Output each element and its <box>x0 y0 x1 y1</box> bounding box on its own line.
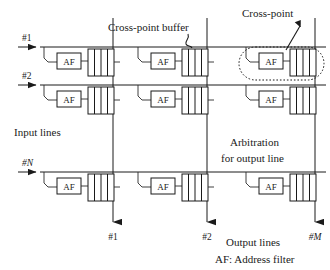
crosspoint-pointer <box>286 26 300 50</box>
crosspoint-label: Cross-point <box>242 7 293 19</box>
crosspoint-cell-r2c2: AF <box>138 85 214 114</box>
crosspoint-switch-diagram: AF AF AF <box>0 0 330 270</box>
arbitration-label-line1: Arbitration <box>230 136 279 148</box>
crosspoint-cell-r1c2: AF <box>138 47 214 76</box>
af-label: AF <box>265 182 277 192</box>
af-label: AF <box>63 182 75 192</box>
crosspoint-cell-rnc2: AF <box>138 172 214 201</box>
input-label-2: #2 <box>22 71 32 81</box>
crosspoint-cell-r1cm: AF <box>246 47 316 76</box>
crosspoint-cell-rnc1: AF <box>44 172 120 201</box>
output-label-1: #1 <box>108 232 118 242</box>
af-label: AF <box>63 95 75 105</box>
crosspoint-cell-r1c1: AF <box>44 47 120 76</box>
crosspoint-buffer-label: Cross-point buffer <box>108 21 189 33</box>
crosspoint-buffer-pointer <box>186 34 192 48</box>
af-label: AF <box>157 57 169 67</box>
input-label-1: #1 <box>22 33 32 43</box>
input-lines-label: Input lines <box>14 126 61 138</box>
af-label: AF <box>265 95 277 105</box>
output-label-2: #2 <box>202 232 212 242</box>
af-label: AF <box>157 95 169 105</box>
output-lines-label: Output lines <box>226 236 280 248</box>
af-label: AF <box>265 57 277 67</box>
crosspoint-cell-r2c1: AF <box>44 85 120 114</box>
output-label-m: #M <box>309 232 323 242</box>
arbitration-label-line2: for output line <box>221 152 284 164</box>
input-label-n: #N <box>22 158 34 168</box>
af-label: AF <box>157 182 169 192</box>
legend-label: AF: Address filter <box>215 253 295 265</box>
crosspoint-cell-rncm: AF <box>246 172 316 201</box>
af-label: AF <box>63 57 75 67</box>
crosspoint-cell-r2cm: AF <box>246 85 316 114</box>
diagram-canvas: AF AF AF <box>0 0 330 270</box>
